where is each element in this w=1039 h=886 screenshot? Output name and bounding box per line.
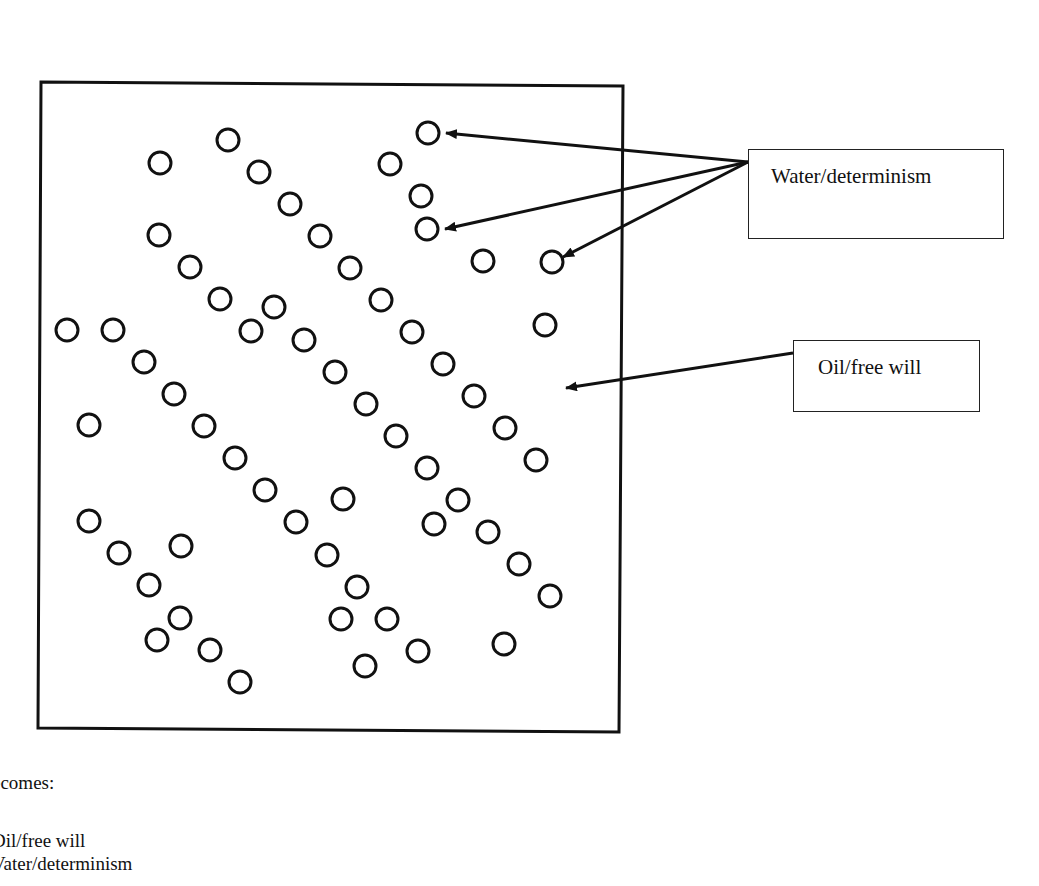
particle-circle [355, 393, 377, 415]
particle-circle [146, 629, 168, 651]
particle-circle [346, 576, 368, 598]
particle-circle [385, 425, 407, 447]
particle-circle [248, 161, 270, 183]
particle-circle [229, 671, 251, 693]
particle-circle [463, 385, 485, 407]
particle-circle [209, 288, 231, 310]
particle-circle [494, 417, 516, 439]
particle-circle [224, 447, 246, 469]
oil-free-will-label-box: Oil/free will [793, 340, 980, 412]
oil-free-will-label: Oil/free will [818, 355, 921, 380]
particle-circle [416, 218, 438, 240]
particle-circle [477, 521, 499, 543]
particle-circle [330, 608, 352, 630]
particle-circle [376, 608, 398, 630]
particle-circle [170, 535, 192, 557]
particle-circle [285, 511, 307, 533]
particle-circle [263, 296, 285, 318]
particle-circle [472, 250, 494, 272]
particle-circle [169, 607, 191, 629]
caption-becomes: ecomes: [0, 772, 54, 794]
water-determinism-label: Water/determinism [771, 164, 931, 189]
particle-circle [148, 224, 170, 246]
particle-circle [339, 257, 361, 279]
callout-arrow [566, 353, 793, 388]
particle-circle [401, 321, 423, 343]
oil-water-diagram [0, 0, 1039, 886]
particle-circle [254, 479, 276, 501]
callout-arrows-group [445, 133, 793, 388]
particle-circle [332, 488, 354, 510]
particle-circle [525, 449, 547, 471]
particle-circle [133, 351, 155, 373]
particle-circle [138, 574, 160, 596]
particle-circle [108, 542, 130, 564]
caption-water-determinism: Vater/determinism [0, 853, 132, 875]
water-determinism-label-box: Water/determinism [748, 149, 1004, 239]
particle-circle [163, 383, 185, 405]
particle-circle [508, 553, 530, 575]
particle-circle [240, 320, 262, 342]
callout-arrow [445, 162, 748, 229]
callout-arrow [446, 133, 748, 162]
particle-circle [293, 329, 315, 351]
particle-circle [379, 153, 401, 175]
particle-circle [179, 256, 201, 278]
particle-circle [370, 289, 392, 311]
particle-circle [217, 129, 239, 151]
particle-circle [193, 415, 215, 437]
particle-circle [493, 633, 515, 655]
particle-circle [417, 122, 439, 144]
particle-circle [78, 510, 100, 532]
particle-circle [309, 225, 331, 247]
particle-circle [423, 513, 445, 535]
particle-circle [447, 489, 469, 511]
particle-circle [279, 193, 301, 215]
particle-circle [354, 655, 376, 677]
particle-circle [149, 152, 171, 174]
particle-circle [407, 640, 429, 662]
particle-circle [416, 457, 438, 479]
particle-circle [78, 414, 100, 436]
particle-circle [432, 353, 454, 375]
container-frame [38, 82, 623, 732]
caption-oil-free-will: Dil/free will [0, 830, 85, 852]
particle-circle [410, 185, 432, 207]
callout-arrow [563, 162, 748, 257]
particle-circle [539, 585, 561, 607]
particle-circle [541, 251, 563, 273]
particle-circle [56, 319, 78, 341]
particle-circle [324, 361, 346, 383]
particle-circle [534, 314, 556, 336]
particle-circle [199, 639, 221, 661]
particle-circle [316, 544, 338, 566]
particles-group [56, 122, 563, 693]
particle-circle [102, 319, 124, 341]
